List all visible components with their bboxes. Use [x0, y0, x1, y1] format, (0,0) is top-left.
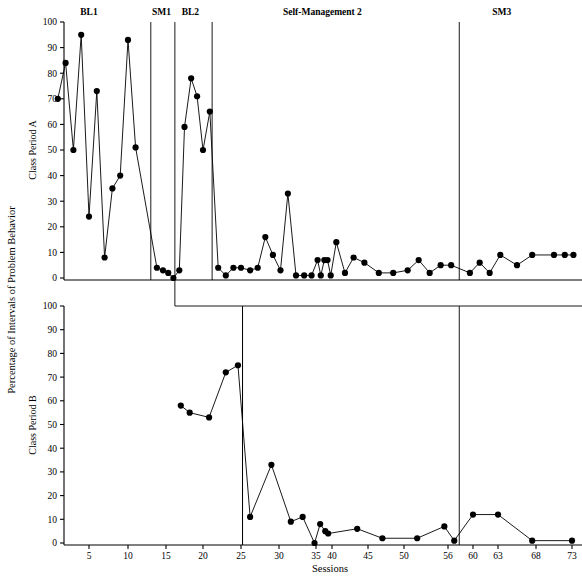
phase-label-0-2: BL2 [182, 7, 200, 17]
y-tick-label-0-90: 90 [48, 43, 58, 53]
y-axis-title: Percentage of Intervals of Problem Behav… [6, 206, 17, 394]
data-point-0-0-26 [255, 265, 261, 271]
data-point-1-0-0 [178, 402, 184, 408]
plot-generated-layer: 0102030405060708090100BL1SM1BL2Self-Mana… [43, 7, 582, 561]
data-point-0-0-56 [551, 252, 557, 258]
data-point-0-0-48 [438, 262, 444, 268]
phase-label-0-1: SM1 [152, 7, 171, 17]
x-tick-label-73: 73 [567, 551, 577, 561]
figure-root: Percentage of Intervals of Problem Behav… [0, 0, 582, 582]
data-point-0-0-24 [238, 265, 244, 271]
data-point-0-0-23 [230, 265, 236, 271]
data-point-1-0-18 [470, 511, 476, 517]
data-point-0-0-43 [376, 270, 382, 276]
data-point-0-0-11 [154, 265, 160, 271]
data-point-0-0-18 [194, 93, 200, 99]
data-point-0-0-25 [247, 267, 253, 273]
data-point-0-0-38 [328, 272, 334, 278]
data-point-0-0-15 [176, 267, 182, 273]
data-point-0-0-20 [207, 109, 213, 115]
data-point-0-0-27 [262, 234, 268, 240]
data-point-0-0-12 [160, 267, 166, 273]
x-tick-label-10: 10 [123, 551, 133, 561]
x-tick-label-45: 45 [363, 551, 373, 561]
data-point-0-0-29 [277, 267, 283, 273]
data-point-0-0-47 [427, 270, 433, 276]
data-point-0-0-39 [333, 239, 339, 245]
x-tick-label-40: 40 [327, 551, 337, 561]
y-tick-label-1-100: 100 [43, 301, 58, 311]
data-point-0-0-53 [497, 252, 503, 258]
y-tick-label-1-60: 60 [48, 396, 58, 406]
data-point-1-0-3 [223, 369, 229, 375]
data-point-1-0-2 [206, 414, 212, 420]
phase-label-0-4: SM3 [492, 7, 511, 17]
phase-label-0-0: BL1 [80, 7, 98, 17]
data-point-1-0-12 [325, 530, 331, 536]
data-point-0-0-2 [70, 147, 76, 153]
data-point-1-0-8 [300, 514, 306, 520]
y-tick-label-1-30: 30 [48, 467, 58, 477]
x-tick-label-15: 15 [161, 551, 171, 561]
chart-canvas: Percentage of Intervals of Problem Behav… [0, 0, 582, 582]
x-tick-label-35: 35 [311, 551, 321, 561]
data-point-1-0-21 [569, 538, 575, 544]
phase-label-0-3: Self-Management 2 [283, 7, 362, 17]
x-tick-label-56: 56 [443, 551, 453, 561]
x-tick-label-50: 50 [399, 551, 409, 561]
y-tick-label-0-100: 100 [43, 17, 58, 27]
y-tick-label-1-50: 50 [48, 420, 58, 430]
data-point-0-0-16 [181, 124, 187, 130]
data-point-1-0-6 [268, 462, 274, 468]
data-point-0-0-17 [188, 75, 194, 81]
y-tick-label-0-10: 10 [48, 248, 58, 258]
y-tick-label-1-90: 90 [48, 325, 58, 335]
y-tick-label-0-40: 40 [48, 171, 58, 181]
data-point-0-0-33 [308, 272, 314, 278]
data-point-0-0-30 [285, 190, 291, 196]
data-point-1-0-16 [441, 523, 447, 529]
series-line-1-0 [181, 365, 572, 543]
data-point-0-0-35 [318, 272, 324, 278]
y-tick-label-0-0: 0 [52, 273, 57, 283]
x-tick-label-60: 60 [468, 551, 478, 561]
data-point-0-0-22 [223, 272, 229, 278]
data-point-0-0-50 [467, 270, 473, 276]
data-point-1-0-14 [379, 535, 385, 541]
y-tick-label-0-20: 20 [48, 222, 58, 232]
data-point-0-0-13 [165, 270, 171, 276]
data-point-0-0-5 [94, 88, 100, 94]
data-point-0-0-51 [477, 260, 483, 266]
y-tick-label-0-80: 80 [48, 69, 58, 79]
data-point-0-0-6 [102, 254, 108, 260]
x-tick-label-68: 68 [531, 551, 541, 561]
y-tick-label-1-10: 10 [48, 515, 58, 525]
data-point-1-0-9 [311, 540, 317, 546]
x-tick-label-5: 5 [87, 551, 92, 561]
data-point-0-0-44 [390, 270, 396, 276]
x-axis-title: Sessions [312, 563, 348, 574]
y-tick-label-1-80: 80 [48, 349, 58, 359]
data-point-0-0-28 [270, 252, 276, 258]
data-point-0-0-42 [361, 260, 367, 266]
data-point-0-0-46 [416, 257, 422, 263]
panel-b-step-border [175, 280, 243, 545]
data-point-1-0-17 [451, 538, 457, 544]
data-point-0-0-54 [514, 262, 520, 268]
data-point-0-0-37 [324, 257, 330, 263]
y-tick-label-1-40: 40 [48, 444, 58, 454]
data-point-0-0-58 [570, 252, 576, 258]
data-point-1-0-13 [354, 526, 360, 532]
y-tick-label-0-60: 60 [48, 120, 58, 130]
y-tick-label-1-20: 20 [48, 491, 58, 501]
x-tick-label-20: 20 [198, 551, 208, 561]
x-tick-label-30: 30 [274, 551, 284, 561]
data-point-0-0-55 [529, 252, 535, 258]
data-point-0-0-41 [351, 254, 357, 260]
data-point-0-0-1 [63, 60, 69, 66]
x-tick-label-25: 25 [236, 551, 246, 561]
data-point-0-0-14 [170, 275, 176, 281]
panel-b-label: Class Period B [27, 395, 38, 455]
data-point-0-0-0 [55, 96, 61, 102]
data-point-1-0-10 [317, 521, 323, 527]
